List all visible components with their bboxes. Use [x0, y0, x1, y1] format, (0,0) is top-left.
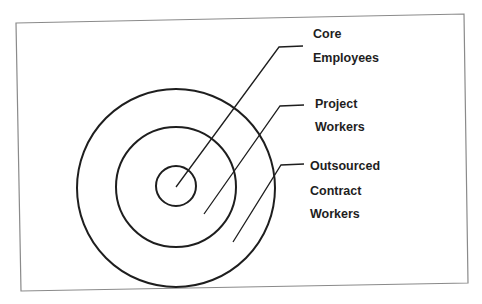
- label-outsourced-line1: Outsourced: [310, 159, 380, 173]
- label-project-line2: Workers: [315, 120, 365, 134]
- label-outsourced-line3: Workers: [310, 207, 360, 221]
- diagram-canvas: Core Employees Project Workers Outsource…: [0, 0, 482, 304]
- label-project-line1: Project: [315, 97, 358, 111]
- label-outsourced-line2: Contract: [310, 184, 362, 198]
- label-core-line2: Employees: [313, 51, 379, 65]
- label-core-line1: Core: [313, 27, 342, 41]
